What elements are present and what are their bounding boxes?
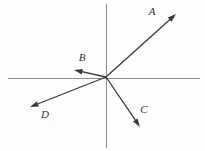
vector-a-label: A <box>148 5 156 17</box>
vector-d-shaft <box>35 77 106 105</box>
vector-d-arrowhead <box>30 101 39 107</box>
vector-d: D <box>30 77 106 120</box>
vector-b-arrowhead <box>74 69 83 74</box>
vector-b-label: B <box>79 51 86 63</box>
vector-b: B <box>74 51 106 77</box>
vector-c-shaft <box>106 77 137 122</box>
vector-diagram-canvas: A B C D <box>0 0 205 151</box>
vector-c: C <box>106 77 148 127</box>
vectors-group: A B C D <box>30 5 176 127</box>
vector-b-shaft <box>79 71 106 77</box>
vector-c-arrowhead <box>133 118 140 127</box>
vector-a: A <box>106 5 176 77</box>
vector-diagram-figure: A B C D <box>0 0 205 151</box>
vector-d-label: D <box>40 108 49 120</box>
vector-a-shaft <box>106 18 172 77</box>
vector-c-label: C <box>140 103 148 115</box>
